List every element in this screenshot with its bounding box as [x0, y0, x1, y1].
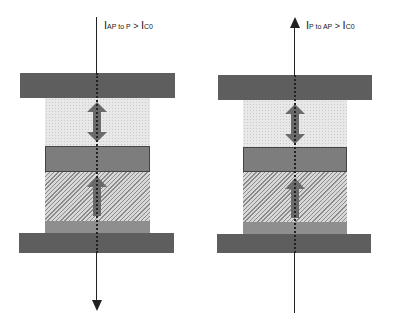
current-line-top	[96, 17, 97, 73]
mtj-panel-left: IAP to P > IC0	[0, 0, 196, 328]
current-path-dotted	[294, 75, 296, 253]
current-line-top	[294, 27, 295, 75]
mtj-panel-right: IP to AP > IC0	[196, 0, 393, 328]
arrow-down-icon	[92, 300, 102, 311]
current-label-right: IP to AP > IC0	[306, 19, 355, 31]
current-label-left: IAP to P > IC0	[104, 19, 153, 31]
current-line-bottom	[96, 253, 97, 303]
current-line-bottom	[294, 253, 295, 313]
current-path-dotted	[96, 73, 98, 253]
